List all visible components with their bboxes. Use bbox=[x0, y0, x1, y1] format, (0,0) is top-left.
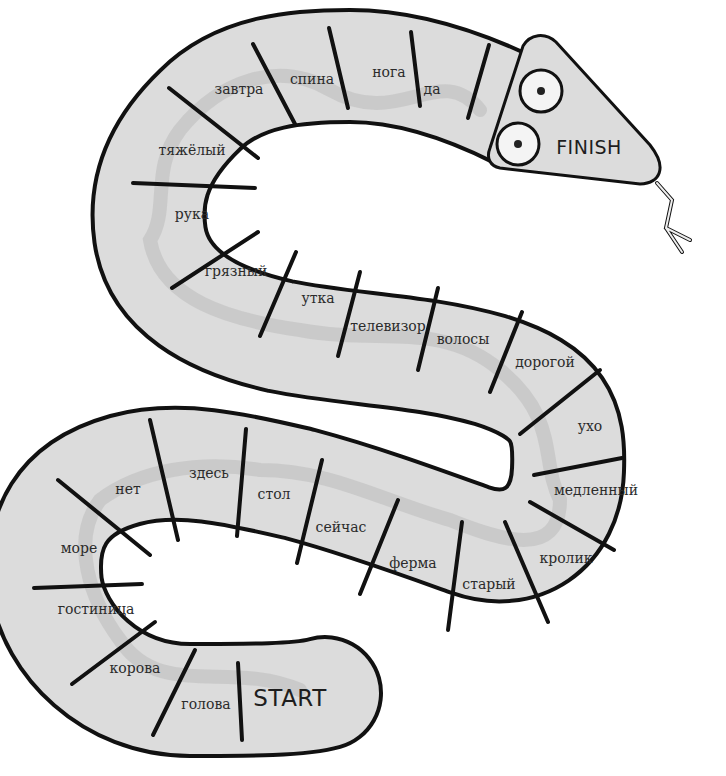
cell-22[interactable]: спина bbox=[290, 71, 334, 87]
cell-10[interactable]: старый bbox=[462, 576, 515, 592]
cell-1[interactable]: голова bbox=[181, 696, 230, 712]
cell-12[interactable]: медленный bbox=[554, 482, 638, 498]
cell-21[interactable]: завтра bbox=[215, 81, 264, 97]
cell-8[interactable]: сейчас bbox=[316, 519, 367, 535]
cell-11[interactable]: кролик bbox=[539, 550, 592, 566]
cell-4[interactable]: море bbox=[61, 540, 98, 556]
cell-24[interactable]: да bbox=[424, 81, 441, 97]
cell-20[interactable]: тяжёлый bbox=[158, 142, 225, 158]
cell-19[interactable]: рука bbox=[175, 206, 209, 222]
start-cell[interactable]: START bbox=[253, 685, 326, 711]
cell-14[interactable]: дорогой bbox=[515, 354, 575, 370]
cell-18[interactable]: грязный bbox=[205, 263, 268, 279]
cell-2[interactable]: корова bbox=[110, 660, 161, 676]
tongue-icon bbox=[657, 183, 690, 252]
cell-3[interactable]: гостиница bbox=[58, 601, 135, 617]
cell-9[interactable]: ферма bbox=[389, 555, 436, 571]
cell-17[interactable]: утка bbox=[301, 290, 334, 306]
cell-5[interactable]: нет bbox=[115, 481, 140, 497]
cell-13[interactable]: ухо bbox=[578, 418, 603, 434]
cell-15[interactable]: волосы bbox=[437, 331, 490, 347]
cell-23[interactable]: нога bbox=[372, 64, 405, 80]
finish-cell[interactable]: FINISH bbox=[556, 136, 622, 158]
cell-16[interactable]: телевизор bbox=[350, 318, 425, 334]
cell-6[interactable]: здесь bbox=[189, 465, 229, 481]
cell-7[interactable]: стол bbox=[258, 486, 291, 502]
